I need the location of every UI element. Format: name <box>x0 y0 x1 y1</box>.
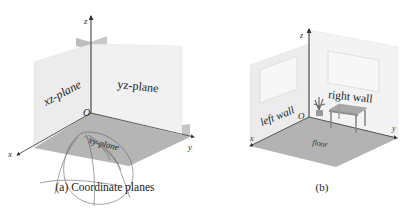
panel-b-room: z x y O left wall right wall floor (b) <box>249 29 398 194</box>
figure-canvas: z x y O xz-plane yz-plane xy-plane (a) C… <box>0 0 411 208</box>
origin-label-b: O <box>298 111 305 121</box>
y-axis-label: y <box>187 142 192 152</box>
caption-b: (b) <box>316 181 329 194</box>
x-axis-label-b: x <box>249 134 254 143</box>
caption-a: (a) Coordinate planes <box>56 181 156 194</box>
origin-label: O <box>83 107 90 118</box>
z-axis-label-b: z <box>299 31 304 40</box>
x-axis-label: x <box>7 149 12 159</box>
y-axis-label-b: y <box>391 124 396 133</box>
z-axis-label: z <box>83 16 88 26</box>
panel-a-coordinate-planes: z x y O xz-plane yz-plane xy-plane (a) C… <box>7 16 194 206</box>
